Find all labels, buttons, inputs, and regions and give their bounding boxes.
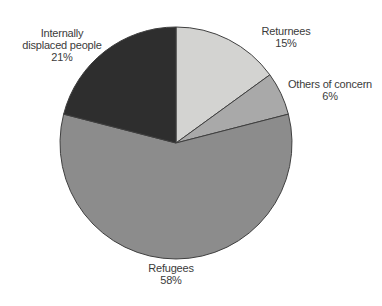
pie-chart-figure: Internally displaced people 21% Returnee… [0, 0, 382, 306]
label-line: Returnees [236, 25, 336, 37]
label-value: 6% [278, 90, 382, 102]
label-internally-displaced-people: Internally displaced people 21% [6, 27, 118, 63]
label-line: displaced people [6, 39, 118, 51]
label-value: 58% [121, 274, 221, 286]
label-line: Others of concern [278, 78, 382, 90]
label-line: Internally [6, 27, 118, 39]
label-line: Refugees [121, 262, 221, 274]
label-refugees: Refugees 58% [121, 262, 221, 286]
label-returnees: Returnees 15% [236, 25, 336, 49]
label-value: 21% [6, 51, 118, 63]
label-value: 15% [236, 37, 336, 49]
label-others-of-concern: Others of concern 6% [278, 78, 382, 102]
